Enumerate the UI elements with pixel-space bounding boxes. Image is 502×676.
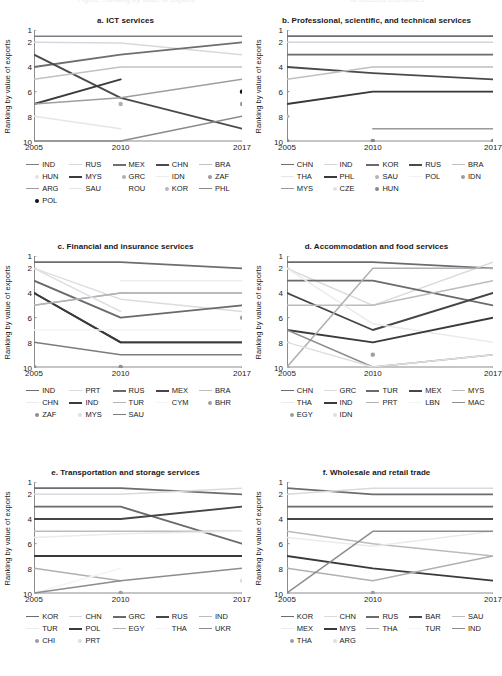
- legend-item-phl[interactable]: PHL: [195, 184, 238, 193]
- legend-item-arg[interactable]: ARG: [22, 184, 65, 193]
- legend-item-idn[interactable]: IDN: [448, 172, 491, 181]
- legend-item-lbn[interactable]: LBN: [405, 398, 448, 407]
- legend-item-kor[interactable]: KOR: [277, 612, 320, 621]
- legend-item-kor[interactable]: KOR: [363, 160, 406, 169]
- data-point-CHI: [118, 591, 122, 594]
- legend-item-ind[interactable]: IND: [22, 386, 65, 395]
- legend-label: MYS: [468, 386, 488, 395]
- legend-item-rou[interactable]: ROU: [108, 184, 151, 193]
- legend-item-mys[interactable]: MYS: [277, 184, 320, 193]
- legend-item-tha[interactable]: THA: [277, 172, 320, 181]
- legend-item-pol[interactable]: POL: [22, 196, 65, 205]
- legend-item-egy[interactable]: EGY: [108, 624, 151, 633]
- legend-item-ind[interactable]: IND: [195, 612, 238, 621]
- legend-item-tha[interactable]: THA: [277, 636, 320, 645]
- y-tick-label: 1: [267, 478, 283, 487]
- legend-item-tur[interactable]: TUR: [108, 398, 151, 407]
- legend-line-marker-icon: [26, 164, 39, 165]
- legend-item-grc[interactable]: GRC: [108, 612, 151, 621]
- legend-item-tha[interactable]: THA: [152, 624, 195, 633]
- legend-item-chn[interactable]: CHN: [320, 612, 363, 621]
- legend-item-chn[interactable]: CHN: [277, 386, 320, 395]
- legend-item-zaf[interactable]: ZAF: [195, 172, 238, 181]
- legend-item-pol[interactable]: POL: [65, 624, 108, 633]
- legend-item-rus[interactable]: RUS: [108, 386, 151, 395]
- legend-item-kor[interactable]: KOR: [152, 184, 195, 193]
- legend-item-mac[interactable]: MAC: [448, 398, 491, 407]
- y-tick-label: 1: [16, 26, 32, 35]
- plot-canvas-c: [34, 256, 242, 368]
- legend-item-idn[interactable]: IDN: [152, 172, 195, 181]
- legend-item-mys[interactable]: MYS: [65, 410, 108, 419]
- legend-item-bar[interactable]: BAR: [405, 612, 448, 621]
- legend-label: PRT: [85, 636, 105, 645]
- legend-line-marker-icon: [366, 164, 379, 166]
- legend-item-grc[interactable]: GRC: [108, 172, 151, 181]
- legend-item-ind[interactable]: IND: [448, 624, 491, 633]
- legend-item-chn[interactable]: CHN: [152, 160, 195, 169]
- legend-item-mex[interactable]: MEX: [152, 386, 195, 395]
- legend-item-cze[interactable]: CZE: [320, 184, 363, 193]
- legend-item-tur[interactable]: TUR: [405, 624, 448, 633]
- panel-title-f: f. Wholesale and retail trade: [251, 468, 502, 477]
- legend-item-ind[interactable]: IND: [65, 398, 108, 407]
- legend-item-tha[interactable]: THA: [277, 398, 320, 407]
- legend-label: CZE: [340, 184, 360, 193]
- legend-item-prt[interactable]: PRT: [363, 398, 406, 407]
- legend-item-chn[interactable]: CHN: [65, 612, 108, 621]
- legend-item-idn[interactable]: IDN: [320, 410, 363, 419]
- legend-item-mys[interactable]: MYS: [65, 172, 108, 181]
- legend-item-cym[interactable]: CYM: [152, 398, 195, 407]
- legend-item-rus[interactable]: RUS: [363, 612, 406, 621]
- legend-item-chn[interactable]: CHN: [22, 398, 65, 407]
- legend-item-mys[interactable]: MYS: [320, 624, 363, 633]
- legend-item-bra[interactable]: BRA: [195, 160, 238, 169]
- legend-item-arg[interactable]: ARG: [320, 636, 363, 645]
- legend-item-bhr[interactable]: BHR: [195, 398, 238, 407]
- y-tick-label: 6: [267, 314, 283, 323]
- legend-item-prt[interactable]: PRT: [65, 386, 108, 395]
- legend-item-chi[interactable]: CHI: [22, 636, 65, 645]
- legend-item-sau[interactable]: SAU: [448, 612, 491, 621]
- legend-item-rus[interactable]: RUS: [405, 160, 448, 169]
- legend-label: CHN: [297, 160, 317, 169]
- legend-item-egy[interactable]: EGY: [277, 410, 320, 419]
- series-line-THA: [34, 568, 121, 593]
- legend-item-mex[interactable]: MEX: [277, 624, 320, 633]
- legend-item-rus[interactable]: RUS: [152, 612, 195, 621]
- legend-item-chn[interactable]: CHN: [277, 160, 320, 169]
- series-line-GRC: [34, 507, 242, 544]
- legend-item-grc[interactable]: GRC: [320, 386, 363, 395]
- legend-line-marker-icon: [452, 628, 465, 629]
- legend-item-bra[interactable]: BRA: [448, 160, 491, 169]
- series-line-MAC: [287, 330, 493, 367]
- legend-item-rus[interactable]: RUS: [65, 160, 108, 169]
- legend-label: PHL: [215, 184, 235, 193]
- plot-area-e: Ranking by value of exports1246810200520…: [0, 482, 251, 604]
- legend-line-marker-icon: [113, 188, 126, 189]
- legend-item-zaf[interactable]: ZAF: [22, 410, 65, 419]
- chart-panel-c: c. Financial and insurance servicesRanki…: [0, 234, 251, 460]
- legend-item-prt[interactable]: PRT: [65, 636, 108, 645]
- legend-item-tur[interactable]: TUR: [363, 386, 406, 395]
- legend-item-phl[interactable]: PHL: [320, 172, 363, 181]
- legend-item-bra[interactable]: BRA: [195, 386, 238, 395]
- legend-item-ind[interactable]: IND: [320, 398, 363, 407]
- series-line-RUS: [34, 281, 242, 318]
- legend-item-sau[interactable]: SAU: [65, 184, 108, 193]
- legend-item-mex[interactable]: MEX: [405, 386, 448, 395]
- legend-line-marker-icon: [452, 402, 465, 403]
- legend-item-ind[interactable]: IND: [320, 160, 363, 169]
- legend-item-hun[interactable]: HUN: [363, 184, 406, 193]
- legend-item-hun[interactable]: HUN: [22, 172, 65, 181]
- legend-item-mex[interactable]: MEX: [108, 160, 151, 169]
- legend-item-ukr[interactable]: UKR: [195, 624, 238, 633]
- legend-item-sau[interactable]: SAU: [108, 410, 151, 419]
- legend-item-mys[interactable]: MYS: [448, 386, 491, 395]
- legend-item-ind[interactable]: IND: [22, 160, 65, 169]
- legend-item-pol[interactable]: POL: [405, 172, 448, 181]
- legend-item-kor[interactable]: KOR: [22, 612, 65, 621]
- legend-item-tur[interactable]: TUR: [22, 624, 65, 633]
- legend-item-tha[interactable]: THA: [363, 624, 406, 633]
- legend-item-sau[interactable]: SAU: [363, 172, 406, 181]
